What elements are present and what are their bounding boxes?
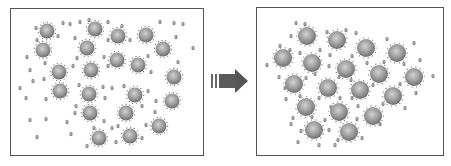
- large-particle: [370, 65, 388, 83]
- large-particle: [165, 94, 180, 109]
- large-particle: [351, 81, 369, 99]
- small-particle: [128, 38, 131, 42]
- large-particle: [330, 103, 348, 121]
- small-particle: [44, 117, 47, 121]
- small-particle: [144, 123, 147, 127]
- small-particle: [317, 143, 320, 147]
- small-particle: [35, 38, 38, 42]
- small-particle: [85, 144, 88, 148]
- small-particle: [310, 115, 313, 119]
- small-particle: [402, 62, 405, 66]
- small-particle: [382, 60, 385, 64]
- small-particle: [102, 119, 105, 123]
- large-particle: [139, 28, 154, 43]
- small-particle: [73, 36, 76, 40]
- large-particle: [36, 43, 51, 58]
- small-particle: [325, 30, 328, 34]
- small-particle: [44, 97, 47, 101]
- small-particle: [154, 99, 157, 103]
- small-particle: [71, 64, 74, 68]
- large-particle: [388, 44, 406, 62]
- small-particle: [172, 21, 175, 25]
- small-particle: [77, 83, 80, 87]
- small-particle: [102, 55, 105, 59]
- small-particle: [318, 48, 321, 52]
- small-particle: [344, 28, 347, 32]
- large-particle: [111, 29, 126, 44]
- small-particle: [34, 26, 37, 30]
- large-particle: [123, 129, 138, 144]
- small-particle: [304, 76, 307, 80]
- small-particle: [75, 56, 78, 60]
- large-particle: [53, 84, 68, 99]
- small-particle: [146, 54, 149, 58]
- small-particle: [418, 58, 421, 62]
- small-particle: [277, 75, 280, 79]
- small-particle: [69, 132, 72, 136]
- small-particle: [336, 138, 339, 142]
- small-particle: [354, 31, 357, 35]
- large-particle: [84, 63, 99, 78]
- large-particle: [152, 119, 167, 134]
- large-particle: [328, 31, 346, 49]
- large-particle: [303, 54, 321, 72]
- large-particle: [364, 107, 382, 125]
- small-particle: [43, 61, 46, 65]
- small-particle: [296, 140, 299, 144]
- small-particle: [412, 41, 415, 45]
- small-particle: [398, 82, 401, 86]
- small-particle: [355, 117, 358, 121]
- small-particle: [303, 22, 306, 26]
- small-particle: [25, 55, 28, 59]
- small-particle: [103, 96, 106, 100]
- small-particle: [323, 118, 326, 122]
- small-particle: [265, 63, 268, 67]
- small-particle: [403, 106, 406, 110]
- large-particle: [128, 88, 143, 103]
- small-particle: [313, 72, 316, 76]
- small-particle: [101, 85, 104, 89]
- small-particle: [73, 111, 76, 115]
- small-particle: [381, 102, 384, 106]
- small-particle: [284, 97, 287, 101]
- large-particle: [405, 68, 423, 86]
- small-particle: [146, 89, 149, 93]
- small-particle: [116, 124, 119, 128]
- small-particle: [191, 46, 194, 50]
- small-particle: [317, 96, 320, 100]
- large-particle: [80, 41, 95, 56]
- small-particle: [61, 21, 64, 25]
- small-particle: [414, 91, 417, 95]
- small-particle: [289, 34, 292, 38]
- small-particle: [350, 96, 353, 100]
- small-particle: [92, 126, 95, 130]
- small-particle: [176, 60, 179, 64]
- small-particle: [153, 110, 156, 114]
- small-particle: [278, 44, 281, 48]
- small-particle: [106, 20, 109, 24]
- large-particle: [297, 98, 315, 116]
- small-particle: [140, 136, 143, 140]
- small-particle: [78, 20, 81, 24]
- small-particle: [298, 51, 301, 55]
- small-particle: [333, 143, 336, 147]
- small-particle: [289, 122, 292, 126]
- small-particle: [291, 116, 294, 120]
- large-particle: [52, 65, 67, 80]
- large-particle: [88, 22, 103, 37]
- small-particle: [327, 128, 330, 132]
- small-particle: [18, 86, 21, 90]
- small-particle: [360, 136, 363, 140]
- small-particle: [24, 96, 27, 100]
- small-particle: [327, 64, 330, 68]
- small-particle: [371, 83, 374, 87]
- large-particle: [305, 121, 323, 139]
- small-particle: [74, 104, 77, 108]
- large-particle: [319, 79, 337, 97]
- small-particle: [174, 35, 177, 39]
- small-particle: [298, 94, 301, 98]
- small-particle: [31, 79, 34, 83]
- small-particle: [356, 104, 359, 108]
- right-large-particles: [272, 25, 425, 142]
- small-particle: [65, 120, 68, 124]
